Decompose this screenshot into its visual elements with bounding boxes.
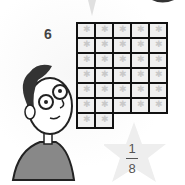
star-icon: ✱: [100, 85, 109, 94]
star-icon: ✱: [82, 40, 91, 49]
star-icon: ✱: [136, 40, 145, 49]
star-icon: ✱: [136, 100, 145, 109]
star-icon: ✱: [100, 40, 109, 49]
star-icon: ✱: [154, 85, 163, 94]
star-icon: ✱: [82, 55, 91, 64]
star-icon: ✱: [118, 25, 127, 34]
star-icon: ✱: [100, 25, 109, 34]
star-icon: ✱: [100, 100, 109, 109]
star-icon: ✱: [154, 70, 163, 79]
star-icon: ✱: [118, 85, 127, 94]
star-icon: ✱: [82, 115, 91, 124]
star-icon: ✱: [82, 70, 91, 79]
grid-cell: ✱: [112, 97, 132, 114]
fraction-denominator: 8: [122, 162, 142, 175]
star-icon: ✱: [154, 40, 163, 49]
cartoon-boy-illustration: [8, 62, 83, 182]
star-icon: ✱: [118, 55, 127, 64]
star-icon: ✱: [82, 85, 91, 94]
star-icon: [104, 120, 184, 185]
star-icon: ✱: [136, 55, 145, 64]
star-icon: ✱: [118, 100, 127, 109]
fraction-bar: [126, 158, 138, 159]
star-icon: ✱: [118, 70, 127, 79]
problem-number: 6: [44, 26, 52, 42]
decorative-shape: [150, 0, 180, 4]
star-icon: ✱: [136, 70, 145, 79]
fraction-numerator: 1: [122, 142, 142, 155]
star-icon: [62, 0, 122, 18]
star-icon: ✱: [154, 25, 163, 34]
grid-cell: ✱: [148, 97, 168, 114]
star-icon: ✱: [154, 55, 163, 64]
star-icon: ✱: [154, 100, 163, 109]
star-icon: ✱: [118, 40, 127, 49]
star-icon: ✱: [82, 100, 91, 109]
star-icon: ✱: [100, 55, 109, 64]
fraction-label: 1 8: [122, 142, 142, 175]
grid-cell: ✱: [130, 97, 150, 114]
star-icon: ✱: [100, 70, 109, 79]
star-icon: ✱: [82, 25, 91, 34]
star-icon: ✱: [136, 25, 145, 34]
star-icon: ✱: [136, 85, 145, 94]
